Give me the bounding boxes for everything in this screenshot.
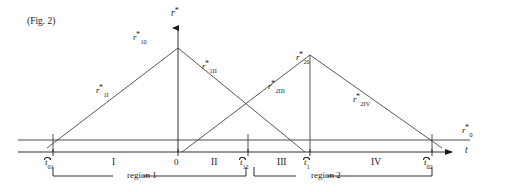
baseline-r0-label: r*0	[462, 126, 473, 135]
curve-label-star: *	[356, 92, 360, 101]
tick-label-subscript: 12	[243, 163, 249, 170]
curve-label-star: *	[299, 50, 303, 59]
curve-label-r2IV: r*2IV	[353, 95, 370, 104]
segment-r1II	[178, 48, 305, 152]
tick-label-t02: t02	[424, 158, 433, 167]
tick-label-t01: t01	[45, 158, 54, 167]
curve-label-star: *	[99, 83, 103, 92]
tick-label-t12: t12	[240, 158, 249, 167]
curve-label-subscript: 10	[141, 38, 147, 45]
curve-label-star: *	[136, 30, 140, 39]
interval-label-I: I	[112, 158, 115, 168]
interval-label-III: III	[277, 158, 287, 168]
segment-r1I	[47, 48, 178, 148]
y-axis-label-star: *	[175, 6, 179, 15]
tick-label-t0: 0	[174, 158, 179, 167]
curve-label-star: *	[271, 79, 275, 88]
curve-label-r2III: r*2III	[268, 82, 285, 91]
interval-label-II: II	[211, 158, 217, 168]
curve-label-subscript: 1I	[104, 91, 109, 98]
curve-label-subscript: 1II	[210, 67, 217, 74]
curve-label-r10: r*10	[133, 33, 147, 42]
curve-label-r1I: r*1I	[96, 86, 109, 95]
segment-r2IV	[310, 55, 442, 148]
region-bracket-label-region1: region 1	[127, 171, 157, 180]
tick-label-subscript: 1	[307, 163, 310, 170]
figure-caption: (Fig. 2)	[27, 17, 56, 27]
interval-label-IV: IV	[371, 158, 381, 168]
x-axis-label: t	[465, 146, 468, 156]
tick-label-t1: t1	[304, 158, 310, 167]
y-axis-label: r*	[171, 9, 179, 19]
figure-2-diagram: (Fig. 2) r* t r*0 r*10r*1Ir*1IIr*2IIIr*2…	[0, 0, 506, 192]
baseline-label-sub: 0	[470, 131, 473, 138]
curve-label-subscript: 2IV	[361, 100, 371, 107]
curve-label-subscript: 20	[304, 58, 310, 65]
curve-label-r1II: r*1II	[202, 62, 217, 71]
region-bracket-label-region2: region 2	[311, 171, 341, 180]
tick-label-subscript: 01	[48, 163, 54, 170]
curve-label-r20: r*20	[296, 53, 310, 62]
curve-label-star: *	[205, 59, 209, 68]
tick-label-base: 0	[174, 157, 179, 167]
baseline-label-star: *	[465, 123, 469, 132]
tick-label-subscript: 02	[427, 163, 433, 170]
bracket-region-2	[254, 167, 432, 176]
curve-label-subscript: 2III	[276, 87, 285, 94]
